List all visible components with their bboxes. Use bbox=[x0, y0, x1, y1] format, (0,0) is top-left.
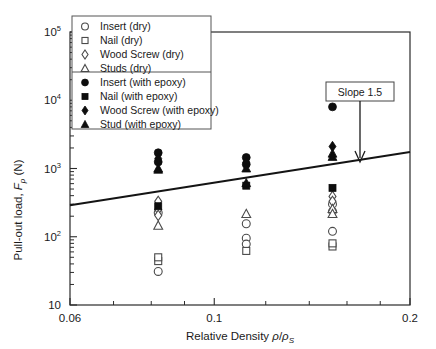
data-point bbox=[82, 23, 89, 30]
y-tick-label: 103 bbox=[44, 161, 61, 175]
slope-annotation-label: Slope 1.5 bbox=[338, 86, 383, 98]
data-point bbox=[242, 220, 250, 228]
x-axis-ticks: 0.060.10.2 bbox=[59, 298, 418, 324]
y-tick-label: 104 bbox=[44, 92, 61, 106]
y-tick-label: 105 bbox=[44, 24, 61, 38]
y-axis-title: Pull-out load, Fp (N) bbox=[12, 159, 27, 260]
legend-item-label: Insert (dry) bbox=[100, 20, 151, 32]
data-point bbox=[154, 221, 163, 229]
y-tick-label: 102 bbox=[44, 229, 61, 243]
y-tick-label: 10 bbox=[48, 299, 61, 311]
x-tick-label: 0.06 bbox=[59, 312, 81, 324]
data-point bbox=[154, 268, 162, 276]
legend-item-label: Studs (dry) bbox=[100, 62, 151, 74]
data-point bbox=[82, 93, 88, 99]
slope-annotation: Slope 1.5 bbox=[326, 82, 394, 162]
legend-item-label: Wood Screw (with epoxy) bbox=[100, 104, 219, 116]
data-point bbox=[243, 247, 250, 254]
data-point bbox=[242, 209, 251, 217]
svg-text:Relative Density ρ/ρS: Relative Density ρ/ρS bbox=[186, 330, 295, 345]
data-point bbox=[82, 37, 88, 43]
data-point bbox=[155, 254, 162, 261]
legend-item-label: Insert (with epoxy) bbox=[100, 76, 186, 88]
legend-item-label: Stud (with epoxy) bbox=[100, 118, 181, 130]
pull-out-load-scatter-chart: 10102103104105 0.060.10.2 Pull-out load,… bbox=[0, 0, 436, 349]
data-point bbox=[329, 184, 336, 191]
chart-legend: Insert (dry)Nail (dry)Wood Screw (dry)St… bbox=[72, 16, 219, 130]
x-tick-label: 0.1 bbox=[206, 312, 222, 324]
legend-item-label: Wood Screw (dry) bbox=[100, 48, 184, 60]
data-point bbox=[329, 103, 337, 111]
data-point bbox=[155, 203, 162, 210]
data-point bbox=[329, 227, 337, 235]
x-axis-title: Relative Density ρ/ρS bbox=[186, 330, 295, 345]
svg-text:Pull-out load, Fp (N): Pull-out load, Fp (N) bbox=[12, 159, 27, 260]
x-tick-label: 0.2 bbox=[402, 312, 418, 324]
data-point bbox=[82, 79, 89, 86]
legend-item-label: Nail (dry) bbox=[100, 34, 143, 46]
data-point bbox=[329, 240, 336, 247]
chart-svg: 10102103104105 0.060.10.2 Pull-out load,… bbox=[0, 0, 436, 349]
legend-item-label: Nail (with epoxy) bbox=[100, 90, 178, 102]
